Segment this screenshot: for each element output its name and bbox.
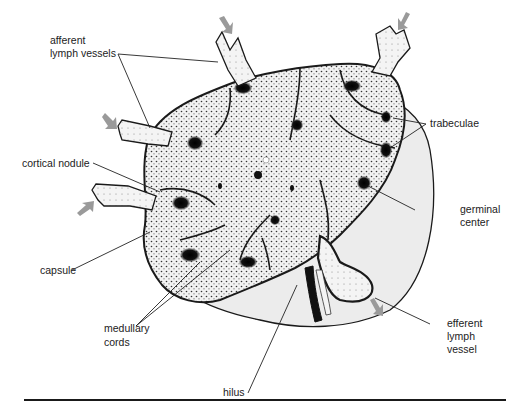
arrow-icon (398, 12, 410, 30)
label-germinal-line1: germinal (460, 203, 500, 216)
bottom-rule (24, 399, 506, 401)
arrow-icon (219, 16, 233, 34)
arrow-icon (77, 201, 94, 216)
lymph-node-illustration (0, 0, 516, 416)
label-medullary-line2: cords (104, 336, 130, 349)
label-afferent-line1: afferent (50, 34, 85, 47)
label-efferent-line1: efferent (447, 317, 482, 330)
label-medullary-line1: medullary (104, 322, 150, 335)
label-efferent-line3: vessel (447, 343, 477, 356)
label-hilus: hilus (223, 386, 245, 399)
label-trabeculae: trabeculae (430, 117, 479, 130)
lymph-node-diagram: afferent lymph vessels trabeculae cortic… (0, 0, 516, 416)
label-cortical-nodule: cortical nodule (22, 157, 90, 170)
label-germinal-line2: center (460, 216, 489, 229)
label-efferent-line2: lymph (447, 330, 475, 343)
label-capsule: capsule (40, 264, 76, 277)
arrow-icon (102, 113, 117, 129)
label-afferent-line2: lymph vessels (50, 47, 116, 60)
